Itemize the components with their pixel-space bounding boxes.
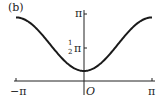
y-tick-label-half-pi: π — [74, 43, 81, 54]
origin-label: O — [86, 86, 95, 97]
x-tick-label-pi: π — [148, 86, 155, 97]
panel-label: (b) — [8, 2, 24, 13]
x-tick-label-neg-pi: −π — [10, 86, 26, 97]
y-tick-label-half-den: 2 — [68, 47, 72, 58]
y-tick-label-pi: π — [75, 8, 82, 19]
